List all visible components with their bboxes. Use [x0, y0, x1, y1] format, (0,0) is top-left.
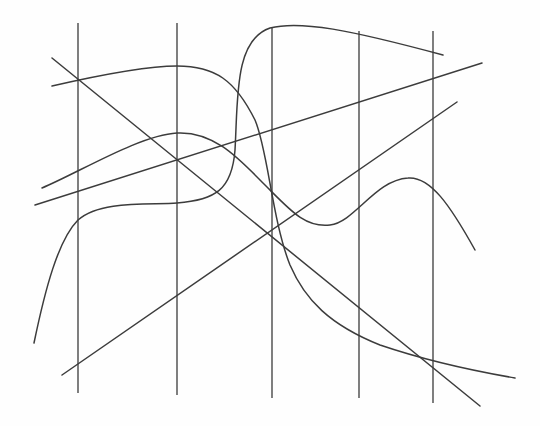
rising-line-upper: [35, 63, 482, 205]
crossing-paths-group: [34, 25, 515, 406]
vertical-lines-group: [78, 23, 433, 403]
line-drawing: [0, 0, 540, 426]
curve-wave: [42, 133, 475, 250]
diagonal-descending-line: [52, 58, 480, 406]
rising-line-lower: [62, 102, 457, 375]
diagram-canvas: [0, 0, 540, 426]
curve-step-rise: [34, 25, 443, 343]
